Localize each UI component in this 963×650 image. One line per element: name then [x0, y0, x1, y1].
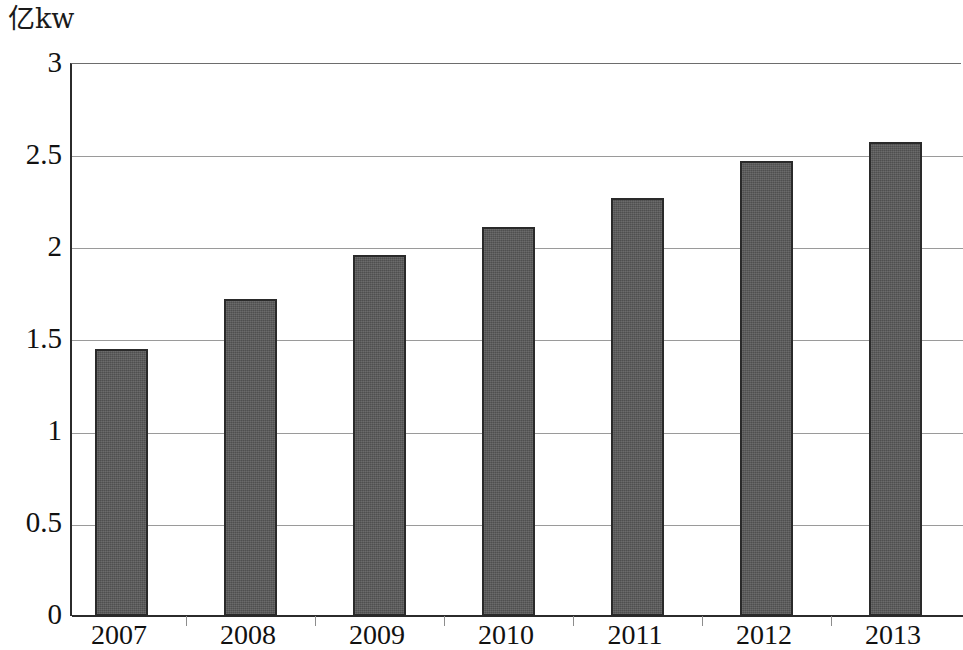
bar-2009[interactable]	[353, 255, 406, 616]
y-axis-tick-label-1-5: 1.5	[0, 324, 62, 353]
x-axis-tick-label-2013: 2013	[833, 620, 953, 650]
bar-2008[interactable]	[224, 299, 277, 616]
y-axis-tick-label-3: 3	[0, 48, 62, 77]
y-axis-tick-label-group: 3 2.5 2 1.5 1 0.5 0	[0, 63, 70, 616]
x-axis-tick-label-2007: 2007	[59, 620, 179, 650]
y-axis-unit-label: 亿kw	[8, 4, 74, 34]
y-axis-tick-label-1: 1	[0, 416, 62, 445]
bar-2011[interactable]	[611, 198, 664, 616]
x-axis-tick-label-2012: 2012	[704, 620, 824, 650]
x-axis-tick-label-2010: 2010	[446, 620, 566, 650]
bar-2007[interactable]	[95, 349, 148, 616]
y-axis-tick-label-2: 2	[0, 232, 62, 261]
x-axis-tick-label-group: 2007 2008 2009 2010 2011 2012 2013	[0, 620, 961, 650]
y-axis-tick-label-0-5: 0.5	[0, 508, 62, 537]
gridline-2-5	[72, 156, 963, 157]
y-axis-tick-label-2-5: 2.5	[0, 140, 62, 169]
bar-2012[interactable]	[740, 161, 793, 616]
x-axis-tick-label-2009: 2009	[317, 620, 437, 650]
plot-area	[70, 63, 961, 616]
bar-2013[interactable]	[869, 142, 922, 616]
x-axis-tick-label-2011: 2011	[575, 620, 695, 650]
x-axis-tick-label-2008: 2008	[188, 620, 308, 650]
bar-2010[interactable]	[482, 227, 535, 616]
